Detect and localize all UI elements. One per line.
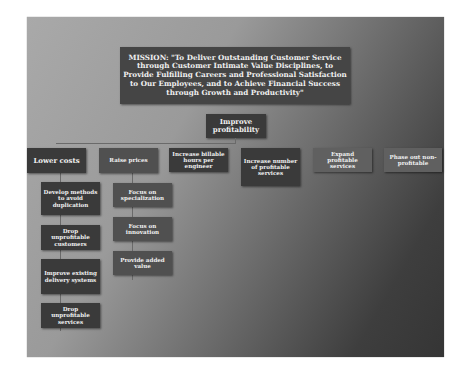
node-provide-added-value: Provide added value xyxy=(113,251,172,275)
node-focus-on-specialization: Focus on specialization xyxy=(113,183,172,207)
node-increase-number-profitable-services: Increase number of profitable services xyxy=(241,148,300,186)
node-lower-costs: Lower costs xyxy=(27,148,86,173)
node-raise-prices: Raise prices xyxy=(99,148,158,173)
slide: MISSION: "To Deliver Outstanding Custome… xyxy=(27,17,444,357)
root-node-improve-profitability: Improve profitability xyxy=(206,114,266,138)
node-improve-existing-delivery-systems: Improve existing delivery systems xyxy=(41,259,100,294)
node-phase-out-non-profitable: Phase out non-profitable xyxy=(384,148,442,172)
node-drop-unprofitable-services: Drop unprofitable services xyxy=(41,303,100,328)
node-focus-on-innovation: Focus on innovation xyxy=(113,217,172,241)
node-increase-billable-hours: Increase billable hours per engineer xyxy=(169,148,228,172)
connector-root-h xyxy=(155,143,236,144)
mission-statement: MISSION: "To Deliver Outstanding Custome… xyxy=(120,47,350,104)
node-expand-profitable-services: Expand profitable services xyxy=(313,148,372,172)
connector-horizontal xyxy=(56,143,156,144)
node-develop-methods-avoid-duplication: Develop methods to avoid duplication xyxy=(41,182,100,215)
node-drop-unprofitable-customers: Drop unprofitable customers xyxy=(41,225,100,250)
